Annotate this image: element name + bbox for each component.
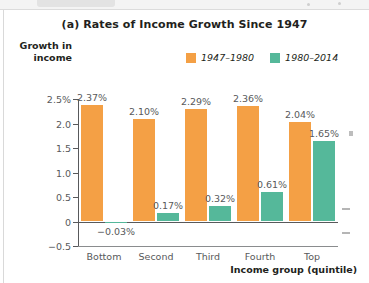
bar-group: 2.10%0.17% [130,99,182,246]
y-axis-tick-label: 2.5% [47,94,71,105]
bar-group: 2.04%1.65% [286,99,338,246]
y-axis-title-line1: Growth in [6,40,72,52]
bar[interactable] [185,109,207,221]
bar[interactable] [289,122,311,222]
legend-swatch-icon [270,53,280,63]
bar-pair: 2.04%1.65% [289,99,335,246]
bar-pair: 2.37%−0.03% [81,99,127,246]
bar-group: 2.37%−0.03% [78,99,130,246]
bar-value-label: 2.10% [129,106,159,117]
bar-value-label: 0.32% [205,193,235,204]
x-axis-title: Income group (quintile) [0,264,357,275]
y-axis-title-line2: income [6,52,72,64]
scan-artifact-tab [37,0,115,7]
bar-value-label: 2.37% [77,92,107,103]
bar[interactable] [261,192,283,222]
chart-figure: (a) Rates of Income Growth Since 1947 Gr… [0,0,369,283]
bar-pair: 2.36%0.61% [237,99,283,246]
y-axis-tick-label: 1.5 [56,143,71,154]
scan-artifact-dot [307,3,310,6]
y-axis-tick-label: −0.5 [48,241,71,252]
y-axis-tick-label: 2.0 [56,118,71,129]
x-axis-category-label: Second [130,251,182,262]
bar[interactable] [133,119,155,222]
chart-title: (a) Rates of Income Growth Since 1947 [0,18,369,31]
scan-artifact-speck [342,208,350,210]
x-axis-category-label: Bottom [78,251,130,262]
legend-label: 1947–1980 [201,52,254,63]
bar-value-label: 2.04% [285,109,315,120]
x-axis-category-label: Fourth [234,251,286,262]
legend-swatch-icon [186,53,196,63]
y-axis-tick-label: 0.5 [56,192,71,203]
legend-item-series-2: 1980–2014 [270,52,338,63]
scan-artifact-rule [0,9,369,10]
y-axis-tick-label: 0 [65,216,71,227]
legend-label: 1980–2014 [285,52,338,63]
x-axis-category-label: Top [286,251,338,262]
legend-item-series-1: 1947–1980 [186,52,254,63]
bar[interactable] [81,105,103,221]
bar-group: 2.36%0.61% [234,99,286,246]
plot-area: 2.5%2.01.51.00.50−0.5 2.37%−0.03%2.10%0.… [78,99,338,246]
bar[interactable] [209,206,231,222]
bar[interactable] [157,213,179,221]
bar-value-label: 0.61% [257,179,287,190]
bar-value-label: 2.36% [233,93,263,104]
bar-pair: 2.10%0.17% [133,99,179,246]
bar-group: 2.29%0.32% [182,99,234,246]
y-axis-tick-label: 1.0 [56,167,71,178]
scan-artifact-dot [338,2,341,5]
bar-value-label: 2.29% [181,96,211,107]
scan-artifact-speck [349,131,353,136]
bar[interactable] [313,141,335,222]
page-left-border [3,10,4,283]
bar-value-label: 0.17% [153,200,183,211]
y-axis-title: Growth in income [6,40,72,64]
bar[interactable] [237,106,259,222]
x-axis-category-label: Third [182,251,234,262]
bar-pair: 2.29%0.32% [185,99,231,246]
scan-artifact-speck [342,232,350,234]
bar[interactable] [105,222,127,223]
chart-legend: 1947–1980 1980–2014 [186,52,338,63]
plot-bottom-rule [78,246,338,247]
bar-value-label: 1.65% [309,128,339,139]
